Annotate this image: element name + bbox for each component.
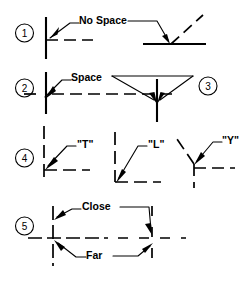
- callout-number-2-text: 2: [22, 83, 28, 94]
- leader-t: [45, 146, 76, 170]
- row-4-group: 4 "T" "L": [16, 126, 239, 188]
- callout-number-1-text: 1: [22, 28, 28, 39]
- callout-number-1: 1: [16, 24, 34, 42]
- drafting-convention-diagram: 1 No Space 2: [0, 0, 246, 282]
- label-t-junction: "T": [77, 138, 93, 150]
- figure-far-crossing: [118, 206, 186, 266]
- callout-number-5: 5: [16, 217, 34, 235]
- figure-y-junction: "Y": [177, 134, 239, 188]
- row-5-group: 5 Close Far: [16, 200, 187, 266]
- t-arrowhead: [45, 157, 58, 170]
- label-close: Close: [82, 200, 111, 212]
- close-arrowhead-left: [54, 210, 66, 220]
- label-no-space: No Space: [79, 14, 127, 26]
- far-arrowhead-left: [54, 240, 65, 251]
- figure-t-junction: "T": [44, 126, 93, 182]
- label-space: Space: [71, 71, 102, 83]
- figure-l-junction: "L": [115, 132, 164, 183]
- leader-space: [45, 80, 71, 99]
- junction-arrowhead-right: [157, 92, 165, 104]
- figure-junction-leaders: [112, 76, 193, 122]
- label-far: Far: [86, 249, 102, 261]
- callout-number-3: 3: [199, 77, 217, 95]
- hidden-dashed-diagonal-line: [171, 15, 203, 44]
- callout-number-4: 4: [16, 149, 34, 167]
- callout-number-3-text: 3: [205, 81, 211, 92]
- close-arrowhead-right: [145, 223, 152, 235]
- callout-number-4-text: 4: [22, 153, 28, 164]
- leader-arrowhead-right: [162, 34, 170, 44]
- l-arrowhead: [116, 169, 126, 183]
- label-y-junction: "Y": [222, 134, 239, 146]
- leader-l: [116, 146, 147, 183]
- figure-no-space-horizontal: [143, 15, 206, 44]
- leader-far: [54, 240, 153, 257]
- label-l-junction: "L": [148, 138, 164, 150]
- row-2-group: 2 Space 3: [16, 71, 218, 122]
- leader-y: [194, 142, 222, 165]
- callout-number-5-text: 5: [22, 221, 28, 232]
- y-upper-left-dashed: [177, 139, 194, 164]
- row-1-group: 1 No Space: [16, 14, 207, 59]
